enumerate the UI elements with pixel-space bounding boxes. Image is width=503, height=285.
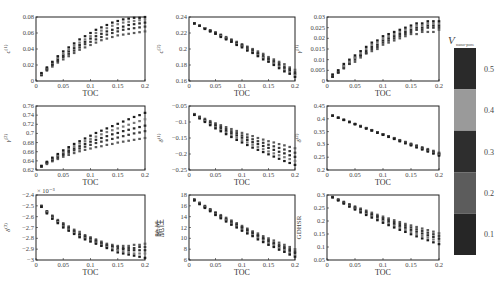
data-point [127,253,130,255]
data-point [138,31,141,33]
colorbar-tick-0.2: 0.2 [484,189,494,198]
data-point [427,20,430,22]
data-point [415,235,418,237]
x-tick-label: 0.15 [405,171,416,178]
y-tick-label: 0.01 [314,56,325,63]
data-point [138,120,141,122]
y-axis-label: δ(1) [156,133,165,142]
data-point [67,146,70,148]
data-point [198,117,201,119]
x-tick-label: 0.15 [112,82,123,89]
data-point [432,238,435,240]
data-point [278,151,281,153]
data-point [138,26,141,28]
data-point [246,50,249,52]
x-tick-label: 0.05 [349,261,360,268]
data-point [127,134,130,136]
data-point [251,141,254,143]
data-point [106,135,109,137]
colorbar-tick-0.1: 0.1 [484,230,494,239]
x-tick-label: 0 [34,171,37,178]
y-tick-label: 0.08 [23,13,34,20]
data-point [144,30,147,32]
data-point [251,52,254,54]
x-tick-label: 0.2 [141,171,149,178]
data-point [288,150,291,152]
y-axis-label: δ(2) [294,133,303,142]
data-point [354,56,357,58]
subplot-c33: 00.050.10.150.20.050.10.150.20.250.3TOCG… [295,191,443,277]
data-point [73,233,76,235]
data-point [133,244,136,246]
data-point [257,146,260,148]
data-point [62,53,65,55]
data-point [273,149,276,151]
data-point [348,206,351,208]
y-tick-label: 0.3 [317,140,325,147]
data-point [133,249,136,251]
x-tick-label: 0.1 [86,82,94,89]
data-point [288,154,291,156]
data-point [415,226,418,228]
data-point [89,147,92,149]
data-point [116,246,119,248]
y-tick-label: 0.74 [23,111,35,118]
data-point [84,38,87,40]
data-point [193,114,196,116]
data-point [257,140,260,142]
y-tick-label: 0.25 [314,204,325,211]
data-point [225,126,228,128]
data-point [127,140,130,142]
y-tick-label: 0.62 [23,166,34,173]
data-point [432,27,435,29]
data-point [84,43,87,45]
data-point [78,236,81,238]
y-axis-label: γ(1) [294,44,303,53]
colorbar-tick-0.3: 0.3 [484,148,494,157]
data-point [410,27,413,29]
data-point [257,238,260,240]
data-point [432,233,435,235]
data-point [427,22,430,24]
data-point [415,33,418,35]
data-point [438,232,441,234]
y-tick-label: −0.05 [172,102,187,109]
data-point [89,138,92,140]
data-point [62,149,65,151]
y-tick-label: −2.4 [22,191,35,198]
data-point [257,143,260,145]
data-point [138,249,141,251]
data-point [267,153,270,155]
x-axis-label: TOC [83,178,99,187]
data-point [116,23,119,25]
x-axis-label: TOC [375,268,391,277]
y-tick-label: 0.005 [310,66,325,73]
data-point [376,48,379,50]
x-tick-label: 0.05 [210,171,221,178]
subplot-c23: 00.050.10.150.20.20.250.30.350.40.45TOCδ… [294,102,443,187]
data-point [133,247,136,249]
data-point [415,233,418,235]
data-point [106,127,109,129]
colorbar-label-main: V [448,34,456,46]
data-point [267,61,270,63]
data-point [331,196,334,198]
data-point [257,137,260,139]
data-point [67,154,70,156]
data-point [122,135,125,137]
data-point [144,26,147,28]
data-point [111,32,114,34]
y-tick-label: 0.2 [317,217,325,224]
x-axis-label: TOC [375,89,391,98]
data-point [288,246,291,248]
data-point [438,22,441,24]
data-point [127,118,130,120]
y-tick-label: −0.1 [175,118,187,125]
data-point [410,24,413,26]
data-point [438,27,441,29]
data-point [144,249,147,251]
data-point [127,28,130,30]
data-point [51,157,54,159]
data-point [421,24,424,26]
data-point [230,136,233,138]
